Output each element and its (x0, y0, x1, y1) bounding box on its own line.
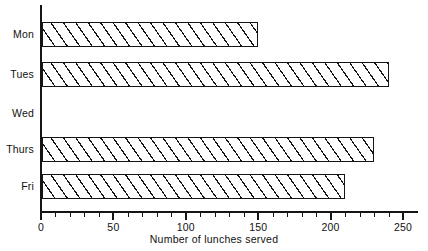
category-label-wed: Wed (12, 107, 34, 119)
x-tick-minor (157, 213, 158, 217)
x-tick-label: 50 (107, 221, 119, 233)
bar-tues (42, 62, 389, 87)
x-axis-title: Number of lunches served (0, 233, 428, 245)
bar-chart: 050100150200250 MonTuesWedThursFri Numbe… (0, 0, 428, 251)
x-tick-minor (389, 213, 390, 217)
x-tick-label: 100 (177, 221, 195, 233)
x-tick-minor (316, 213, 317, 217)
x-tick-major (330, 213, 332, 220)
x-tick-minor (360, 213, 361, 217)
x-tick-minor (70, 213, 71, 217)
x-tick-minor (84, 213, 85, 217)
category-label-mon: Mon (13, 28, 34, 40)
x-tick-minor (273, 213, 274, 217)
x-tick-major (257, 213, 259, 220)
x-tick-minor (287, 213, 288, 217)
x-tick-minor (171, 213, 172, 217)
x-tick-label: 200 (322, 221, 340, 233)
x-tick-minor (142, 213, 143, 217)
x-tick-minor (99, 213, 100, 217)
x-tick-minor (345, 213, 346, 217)
x-tick-label: 150 (249, 221, 267, 233)
x-tick-minor (55, 213, 56, 217)
x-tick-minor (302, 213, 303, 217)
x-tick-label: 250 (394, 221, 412, 233)
x-tick-major (40, 213, 42, 220)
bar-thurs (42, 137, 374, 162)
x-tick-major (402, 213, 404, 220)
bar-mon (42, 22, 258, 47)
category-label-fri: Fri (21, 180, 34, 192)
x-tick-minor (200, 213, 201, 217)
x-tick-minor (229, 213, 230, 217)
x-tick-minor (215, 213, 216, 217)
x-tick-minor (374, 213, 375, 217)
x-tick-minor (128, 213, 129, 217)
bar-fri (42, 174, 345, 199)
x-tick-label: 0 (38, 221, 44, 233)
category-label-thurs: Thurs (6, 143, 34, 155)
category-label-tues: Tues (10, 68, 34, 80)
x-tick-major (112, 213, 114, 220)
x-tick-major (185, 213, 187, 220)
x-tick-minor (244, 213, 245, 217)
